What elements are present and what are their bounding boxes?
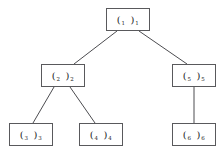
- close-bracket-subscript-1: 1: [135, 21, 139, 27]
- open-bracket-subscript-1: 1: [121, 21, 125, 27]
- tree-node-1[interactable]: (1)1: [106, 8, 150, 31]
- open-bracket-subscript-4: 4: [94, 136, 98, 142]
- tree-node-label-4: (4)4: [90, 130, 112, 140]
- close-bracket-subscript-6: 6: [201, 136, 205, 142]
- open-bracket-subscript-5: 5: [187, 77, 191, 83]
- diagram-canvas: (1)1(2)2(5)5(3)3(4)4(6)6: [0, 0, 221, 155]
- tree-node-label-5: (5)5: [183, 71, 205, 81]
- tree-edge-n1-n5: [139, 31, 187, 64]
- tree-node-label-3: (3)3: [20, 130, 42, 140]
- tree-edge-n2-n3: [33, 87, 54, 123]
- tree-node-3[interactable]: (3)3: [9, 123, 53, 146]
- tree-edge-n2-n4: [70, 87, 95, 123]
- tree-node-2[interactable]: (2)2: [41, 64, 85, 87]
- open-bracket-subscript-3: 3: [24, 136, 28, 142]
- open-bracket-subscript-6: 6: [187, 136, 191, 142]
- close-bracket-subscript-3: 3: [38, 136, 42, 142]
- tree-node-5[interactable]: (5)5: [172, 64, 216, 87]
- open-bracket-subscript-2: 2: [56, 77, 60, 83]
- close-bracket-subscript-5: 5: [201, 77, 205, 83]
- tree-node-4[interactable]: (4)4: [79, 123, 123, 146]
- close-bracket-subscript-2: 2: [70, 77, 74, 83]
- tree-node-6[interactable]: (6)6: [172, 123, 216, 146]
- close-bracket-subscript-4: 4: [108, 136, 112, 142]
- tree-edge-n1-n2: [74, 31, 117, 64]
- tree-node-label-6: (6)6: [183, 130, 205, 140]
- tree-node-label-1: (1)1: [117, 15, 139, 25]
- tree-node-label-2: (2)2: [52, 71, 74, 81]
